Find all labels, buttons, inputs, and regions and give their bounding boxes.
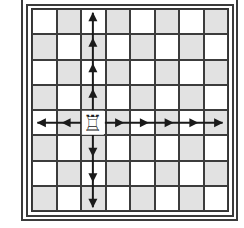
board-square	[155, 135, 180, 160]
board-square	[106, 135, 131, 160]
chessboard	[31, 8, 229, 212]
board-square	[204, 161, 229, 186]
board-square	[179, 135, 204, 160]
board-square	[179, 85, 204, 110]
board-square	[130, 60, 155, 85]
board-square	[81, 60, 106, 85]
board-square	[204, 85, 229, 110]
board-square	[81, 186, 106, 211]
board-square	[106, 9, 131, 34]
board-square	[204, 9, 229, 34]
board-square	[57, 85, 82, 110]
board-square	[130, 186, 155, 211]
board-square	[130, 161, 155, 186]
board-square	[130, 9, 155, 34]
board-square	[179, 186, 204, 211]
board-square	[179, 34, 204, 59]
board-square	[204, 186, 229, 211]
board-square	[32, 135, 57, 160]
board-square	[81, 161, 106, 186]
board-square	[204, 110, 229, 135]
board-square	[106, 60, 131, 85]
board-square	[57, 110, 82, 135]
board-square	[155, 60, 180, 85]
board-square	[57, 161, 82, 186]
board-square	[32, 161, 57, 186]
board-square	[32, 9, 57, 34]
board-square	[179, 110, 204, 135]
board-square	[130, 110, 155, 135]
board-square	[32, 85, 57, 110]
board-square	[155, 161, 180, 186]
board-square	[81, 9, 106, 34]
board-square	[32, 34, 57, 59]
board-square	[155, 110, 180, 135]
board-square	[32, 186, 57, 211]
board-square	[204, 34, 229, 59]
board-square	[204, 135, 229, 160]
board-square	[106, 34, 131, 59]
board-square	[155, 186, 180, 211]
board-square	[106, 85, 131, 110]
board-square	[106, 161, 131, 186]
board-square	[130, 85, 155, 110]
board-square	[179, 9, 204, 34]
board-square	[204, 60, 229, 85]
board-square	[106, 110, 131, 135]
board-square	[57, 9, 82, 34]
board-square	[81, 85, 106, 110]
board-square	[155, 85, 180, 110]
board-square	[81, 34, 106, 59]
board-square	[130, 34, 155, 59]
board-square	[57, 34, 82, 59]
board-square	[155, 34, 180, 59]
board-square	[106, 186, 131, 211]
board-square	[179, 60, 204, 85]
board-square	[179, 161, 204, 186]
board-square	[57, 186, 82, 211]
board-square	[81, 110, 106, 135]
board-square	[57, 60, 82, 85]
board-square	[32, 110, 57, 135]
board-square	[155, 9, 180, 34]
board-square	[81, 135, 106, 160]
board-square	[130, 135, 155, 160]
board-square	[57, 135, 82, 160]
board-square	[32, 60, 57, 85]
